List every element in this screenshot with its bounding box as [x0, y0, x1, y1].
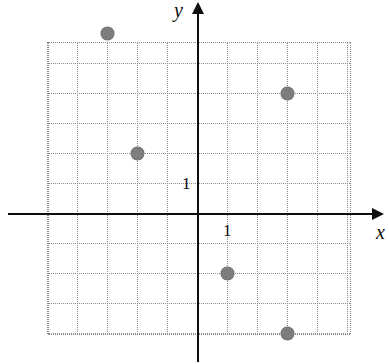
grid-line-vertical	[317, 42, 318, 334]
grid-line-horizontal	[48, 42, 350, 43]
grid-line-horizontal	[48, 93, 350, 94]
data-point	[131, 147, 144, 160]
y-axis-line	[197, 14, 199, 362]
grid-line-vertical	[287, 42, 288, 334]
grid-line-horizontal	[48, 243, 350, 244]
data-point	[281, 87, 294, 100]
x-axis-unit-tick-label: 1	[223, 222, 232, 239]
coordinate-plane-figure: x y 1 1	[0, 0, 389, 364]
data-point	[101, 27, 114, 40]
grid-line-vertical	[48, 42, 49, 334]
grid-line-vertical	[347, 42, 348, 334]
x-axis-line	[8, 213, 372, 215]
y-axis-label: y	[174, 0, 183, 20]
grid-line-horizontal	[48, 334, 350, 335]
grid-line-horizontal	[48, 63, 350, 64]
grid-line-horizontal	[48, 183, 350, 184]
grid-line-horizontal	[48, 153, 350, 154]
grid-line-vertical	[137, 42, 138, 334]
grid-line-vertical	[77, 42, 78, 334]
data-point	[281, 327, 294, 340]
grid-line-horizontal	[48, 123, 350, 124]
grid-line-vertical	[350, 42, 351, 334]
grid	[48, 42, 350, 334]
x-axis-arrow-icon	[372, 208, 384, 220]
x-axis-label: x	[376, 222, 385, 242]
y-axis-arrow-icon	[192, 2, 204, 14]
y-axis-unit-tick-label: 1	[182, 175, 191, 192]
grid-line-vertical	[167, 42, 168, 334]
grid-line-vertical	[257, 42, 258, 334]
grid-line-horizontal	[48, 273, 350, 274]
grid-line-vertical	[107, 42, 108, 334]
grid-line-vertical	[227, 42, 228, 334]
data-point	[221, 267, 234, 280]
grid-line-horizontal	[48, 303, 350, 304]
